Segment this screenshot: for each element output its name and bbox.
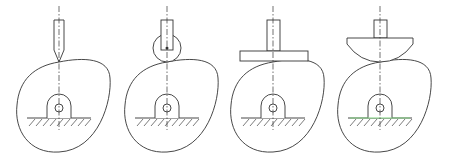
knife-edge-follower-panel [17, 6, 111, 152]
roller-follower-panel [125, 6, 219, 152]
mushroom-follower-panel [338, 6, 432, 152]
flat-face [240, 51, 308, 61]
follower-stem [267, 20, 280, 51]
cam-follower-diagram [0, 0, 450, 158]
flat-faced-follower-panel [231, 6, 325, 152]
follower-stem [374, 20, 387, 38]
